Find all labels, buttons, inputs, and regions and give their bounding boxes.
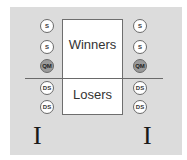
right-s-node-2: S	[133, 40, 147, 54]
right-ds-node-1: DS	[133, 81, 147, 95]
left-marker: I	[33, 123, 42, 149]
left-ds-node-2: DS	[40, 100, 54, 114]
right-s-node-1: S	[133, 19, 147, 33]
right-marker: I	[143, 123, 152, 149]
left-s-node-2: S	[40, 40, 54, 54]
winners-label: Winners	[62, 37, 123, 52]
left-ds-node-1: DS	[40, 81, 54, 95]
left-s-node-1: S	[40, 19, 54, 33]
right-ds-node-2: DS	[133, 100, 147, 114]
divider-line	[25, 78, 163, 79]
losers-label: Losers	[62, 87, 123, 102]
right-qm-node: QM	[133, 59, 147, 73]
left-qm-node: QM	[40, 59, 54, 73]
